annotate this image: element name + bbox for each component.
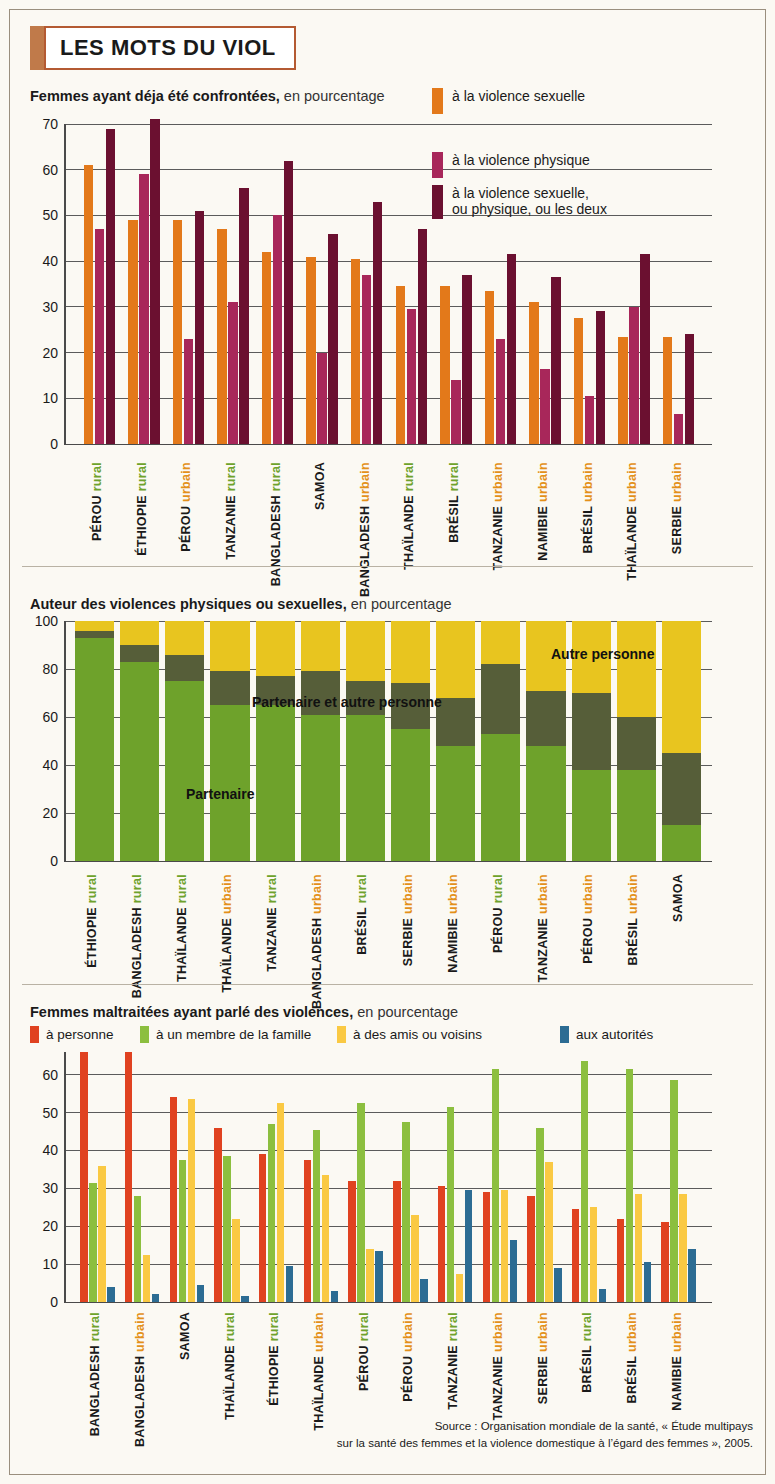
x-label-place: SAMOA: [313, 462, 327, 510]
chart3-bar: [357, 1103, 365, 1302]
chart3-bar: [456, 1274, 464, 1302]
chart1-bar: [128, 220, 138, 444]
x-label-zone: rural: [265, 874, 279, 907]
chart1-bar: [150, 119, 160, 444]
x-axis-label: SERBIE urbain: [537, 1312, 550, 1404]
chart1-ytick: 40: [42, 253, 58, 269]
chart2-gridline: [64, 717, 712, 718]
chart2-bar-segment: [436, 746, 475, 861]
chart2-bar-segment: [346, 621, 385, 681]
x-label-place: PÉROU: [357, 1345, 371, 1391]
chart2-bar-segment: [120, 645, 159, 662]
chart2-bar-segment: [436, 698, 475, 746]
x-axis-label: BRÉSIL rural: [448, 462, 461, 543]
chart1-bar: [262, 252, 272, 444]
chart1-gridline: [64, 261, 712, 262]
chart3-bar: [581, 1061, 589, 1302]
chart2-ytick: 60: [42, 709, 58, 725]
chart1-gridline: [64, 398, 712, 399]
chart2-bar-segment: [210, 705, 249, 861]
x-label-place: ÉTHIOPIE: [135, 495, 149, 556]
x-axis-label: BANGLADESH rural: [270, 462, 283, 586]
chart2-bar-segment: [301, 621, 340, 671]
x-axis-label: BRÉSIL urbain: [627, 874, 640, 965]
chart3-bar: [143, 1255, 151, 1302]
x-label-place: SAMOA: [671, 874, 685, 922]
chart1-title: Femmes ayant déja été confrontées, en po…: [30, 88, 385, 104]
x-label-zone: rural: [267, 1312, 281, 1345]
x-label-zone: rural: [175, 874, 189, 907]
x-label-zone: rural: [135, 462, 149, 495]
chart2-bar-segment: [436, 621, 475, 698]
x-label-place: NAMIBIE: [670, 1356, 684, 1411]
chart2-bar-segment: [256, 705, 295, 861]
chart3-bar: [98, 1166, 106, 1302]
chart3-bar: [492, 1069, 500, 1302]
x-label-zone: rural: [90, 462, 104, 495]
chart2-bar-segment: [572, 693, 611, 770]
x-axis-label: THAÏLANDE rural: [224, 1312, 237, 1420]
chart1-bar: [640, 254, 650, 444]
x-label-zone: rural: [491, 874, 505, 907]
chart3-bar: [304, 1160, 312, 1302]
chart3-y-axis: [64, 1052, 66, 1302]
x-label-place: TANZANIE: [265, 907, 279, 972]
legend-label: à la violence sexuelle: [452, 88, 585, 104]
chart1-bar: [551, 277, 561, 444]
chart2-bar-segment: [526, 691, 565, 746]
x-label-zone: urbain: [401, 874, 415, 918]
chart1-bar: [529, 302, 539, 444]
chart1-y-axis: [64, 124, 66, 444]
legend-label-line1: à la violence sexuelle,: [452, 185, 607, 201]
chart3-bar: [375, 1251, 383, 1302]
x-label-zone: urbain: [626, 874, 640, 918]
x-label-place: BRÉSIL: [580, 1345, 594, 1393]
chart1-title-rest: en pourcentage: [280, 88, 385, 104]
x-axis-label: PÉROU urbain: [582, 874, 595, 964]
chart3-bar: [402, 1122, 410, 1302]
chart3-ytick: 0: [50, 1294, 58, 1310]
x-axis-label: PÉROU rural: [358, 1312, 371, 1391]
chart3-title-bold: Femmes maltraitées ayant parlé des viole…: [30, 1004, 353, 1020]
chart1-bar: [95, 229, 105, 444]
chart1-title-bold: Femmes ayant déja été confrontées,: [30, 88, 280, 104]
x-axis-label: ÉTHIOPIE rural: [86, 874, 99, 968]
chart3-bar: [366, 1249, 374, 1302]
chart1-bar: [317, 353, 327, 444]
x-label-place: PÉROU: [581, 918, 595, 964]
chart3-legend-item: à personne: [30, 1026, 114, 1043]
divider-1: [22, 566, 753, 567]
chart3-gridline: [64, 1302, 712, 1304]
chart2-ytick: 100: [35, 613, 58, 629]
chart3-bar: [268, 1124, 276, 1302]
chart3-ytick: 20: [42, 1218, 58, 1234]
chart1-bar: [507, 254, 517, 444]
x-label-place: NAMIBIE: [536, 506, 550, 561]
chart3-bar: [348, 1181, 356, 1302]
x-label-place: TANZANIE: [491, 1356, 505, 1421]
chart1-bar: [273, 215, 283, 444]
x-label-place: THAÏLANDE: [223, 1345, 237, 1420]
x-axis-label: ÉTHIOPIE rural: [268, 1312, 281, 1406]
chart2-bar-segment: [75, 631, 114, 638]
x-label-place: BRÉSIL: [626, 918, 640, 966]
chart1-bar: [239, 188, 249, 444]
chart2-label-autre: Autre personne: [551, 646, 654, 662]
chart3-bar: [617, 1219, 625, 1302]
x-label-zone: urbain: [625, 462, 639, 506]
legend-label: à un membre de la famille: [156, 1027, 311, 1042]
x-axis-label: SAMOA: [314, 462, 327, 510]
x-label-place: BANGLADESH: [310, 918, 324, 1009]
chart2-bar-segment: [617, 717, 656, 770]
chart1-bar: [306, 257, 316, 444]
chart2-gridline: [64, 621, 712, 622]
chart1-bar: [485, 291, 495, 444]
chart3-bar: [679, 1194, 687, 1302]
chart3-bar: [188, 1099, 196, 1302]
chart3-bar: [286, 1266, 294, 1302]
chart3-legend-item: à des amis ou voisins: [337, 1026, 482, 1043]
x-axis-label: NAMIBIE urbain: [447, 874, 460, 973]
chart3-legend-item: aux autorités: [560, 1026, 653, 1043]
x-label-zone: rural: [130, 874, 144, 907]
x-label-zone: urbain: [670, 462, 684, 506]
